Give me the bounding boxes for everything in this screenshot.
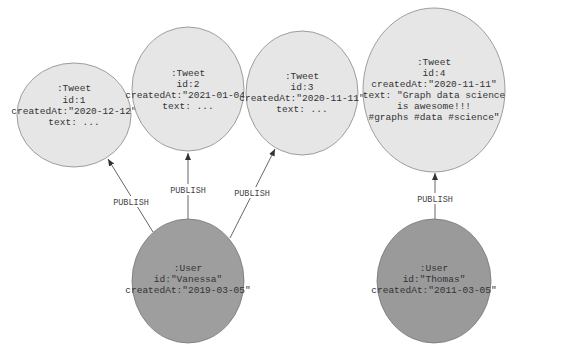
node-type-label: :User: [420, 263, 449, 274]
node-property: createdAt:"2019-03-05": [125, 285, 250, 296]
node-property: id:"Thomas": [403, 274, 466, 285]
edge-label: PUBLISH: [234, 189, 270, 199]
node-property: id:3: [291, 82, 314, 93]
edge-label: PUBLISH: [417, 195, 453, 205]
node-type-label: :Tweet: [285, 71, 319, 82]
node-property: id:"Vanessa": [154, 274, 222, 285]
graph-diagram: PUBLISH PUBLISH PUBLISH PUBLISH :Tweet i…: [0, 0, 581, 360]
edge-vanessa-tweet3: PUBLISH: [230, 149, 275, 238]
edge-thomas-tweet4: PUBLISH: [413, 173, 457, 219]
node-type-label: :Tweet: [417, 57, 451, 68]
node-property: text: ...: [276, 104, 327, 115]
user-node-vanessa: :User id:"Vanessa" createdAt:"2019-03-05…: [125, 219, 250, 343]
edge-vanessa-tweet1: PUBLISH: [108, 159, 153, 232]
edge-label: PUBLISH: [170, 186, 206, 196]
node-type-label: :Tweet: [171, 68, 205, 79]
node-property: text: "Graph data science: [363, 90, 506, 101]
tweet-node-2: :Tweet id:2 createdAt:"2021-01-04" text:…: [125, 27, 250, 151]
node-property: createdAt:"2020-11-11": [239, 93, 364, 104]
node-property: id:2: [177, 79, 200, 90]
node-property: is awesome!!!: [397, 101, 471, 112]
edge-vanessa-tweet2: PUBLISH: [166, 153, 210, 219]
node-property: createdAt:"2020-11-11": [371, 79, 496, 90]
tweet-node-1: :Tweet id:1 createdAt:"2020-12-12" text:…: [11, 63, 136, 167]
user-node-thomas: :User id:"Thomas" createdAt:"2011-03-05": [371, 219, 496, 343]
node-type-label: :User: [174, 263, 203, 274]
node-type-label: :Tweet: [57, 83, 91, 94]
tweet-node-3: :Tweet id:3 createdAt:"2020-11-11" text:…: [239, 31, 364, 155]
node-property: #graphs #data #science": [368, 112, 499, 123]
node-property: id:4: [423, 68, 446, 79]
node-property: createdAt:"2011-03-05": [371, 285, 496, 296]
node-property: text: ...: [48, 117, 99, 128]
node-property: text: ...: [162, 101, 213, 112]
tweet-node-4: :Tweet id:4 createdAt:"2020-11-11" text:…: [363, 8, 506, 172]
node-property: createdAt:"2021-01-04": [125, 90, 250, 101]
edge-line: [108, 159, 153, 232]
node-property: id:1: [63, 95, 86, 106]
edge-label: PUBLISH: [113, 198, 149, 208]
node-property: createdAt:"2020-12-12": [11, 106, 136, 117]
